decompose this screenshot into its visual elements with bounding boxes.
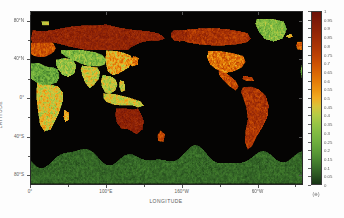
- x-tick: [106, 185, 107, 188]
- colorbar[interactable]: 10.950.90.850.80.750.70.650.60.550.50.45…: [311, 11, 322, 185]
- colorbar-tick: [308, 124, 311, 125]
- colorbar-unit-label: (※): [313, 192, 320, 197]
- colorbar-tick-label: 0.15: [324, 156, 332, 161]
- chart-figure: 0°100°E160°W60°W 80°N40°N0°40°S80°S LONG…: [0, 0, 344, 218]
- colorbar-tick-label: 0.35: [324, 122, 332, 127]
- colorbar-tick-label: 0.7: [324, 61, 330, 66]
- y-tick-right: [299, 137, 302, 138]
- colorbar-tick: [308, 81, 311, 82]
- colorbar-tick: [308, 98, 311, 99]
- global-heatmap-canvas: [31, 12, 302, 184]
- colorbar-tick-label: 0.55: [324, 87, 332, 92]
- x-tick-minor: [144, 185, 145, 187]
- colorbar-gradient: [311, 11, 322, 185]
- colorbar-tick-label: 1: [324, 9, 326, 14]
- colorbar-tick-label: 0.5: [324, 96, 330, 101]
- y-tick-label-text: 0°: [20, 95, 24, 100]
- colorbar-tick-label: 0.9: [324, 26, 330, 31]
- colorbar-tick: [308, 11, 311, 12]
- x-tick-minor: [68, 185, 69, 187]
- colorbar-tick: [308, 159, 311, 160]
- colorbar-tick-label: 0.95: [324, 17, 332, 22]
- colorbar-tick-label: 0.8: [324, 43, 330, 48]
- x-tick-label: 160°W: [174, 189, 188, 194]
- x-tick-label: 60°W: [252, 189, 264, 194]
- colorbar-tick-label: 0: [324, 183, 326, 188]
- x-axis-title: LONGITUDE: [149, 198, 182, 204]
- colorbar-tick: [308, 115, 311, 116]
- colorbar-tick-label: 0.05: [324, 174, 332, 179]
- colorbar-tick: [308, 185, 311, 186]
- colorbar-tick: [308, 46, 311, 47]
- y-tick-label-text: 80°S: [14, 172, 24, 177]
- x-tick: [182, 185, 183, 188]
- colorbar-tick: [308, 28, 311, 29]
- y-axis-title: LATITUDE: [0, 101, 3, 128]
- colorbar-tick: [308, 37, 311, 38]
- colorbar-tick-label: 0.75: [324, 52, 332, 57]
- x-tick-minor: [220, 185, 221, 187]
- colorbar-tick: [308, 142, 311, 143]
- colorbar-tick: [308, 63, 311, 64]
- y-tick: [27, 98, 30, 99]
- colorbar-tick-label: 0.2: [324, 148, 330, 153]
- y-tick-right: [299, 21, 302, 22]
- y-tick-minor: [28, 117, 30, 118]
- x-tick-top: [30, 12, 31, 15]
- y-tick: [27, 21, 30, 22]
- colorbar-tick-label: 0.65: [324, 69, 332, 74]
- colorbar-tick-label: 0.45: [324, 104, 332, 109]
- x-tick: [30, 185, 31, 188]
- y-tick: [27, 137, 30, 138]
- y-tick: [27, 175, 30, 176]
- y-tick-label-text: 80°N: [14, 18, 24, 23]
- y-tick-minor: [28, 156, 30, 157]
- x-tick-minor: [295, 185, 296, 187]
- map-plot-area[interactable]: [30, 11, 303, 185]
- colorbar-tick-label: 0.3: [324, 130, 330, 135]
- x-tick-top: [182, 12, 183, 15]
- y-tick-right: [299, 98, 302, 99]
- colorbar-tick: [308, 168, 311, 169]
- x-tick-label: 0°: [28, 189, 33, 194]
- y-tick-label-text: 40°S: [14, 134, 24, 139]
- colorbar-tick-label: 0.25: [324, 139, 332, 144]
- colorbar-tick: [308, 89, 311, 90]
- y-tick-right: [299, 59, 302, 60]
- colorbar-tick-label: 0.4: [324, 113, 330, 118]
- colorbar-tick: [308, 150, 311, 151]
- x-tick-top: [106, 12, 107, 15]
- colorbar-tick: [308, 72, 311, 73]
- colorbar-tick: [308, 20, 311, 21]
- x-tick: [258, 185, 259, 188]
- y-tick-label-text: 40°N: [14, 56, 24, 61]
- x-tick-top: [258, 12, 259, 15]
- colorbar-tick-label: 0.85: [324, 35, 332, 40]
- y-tick-right: [299, 175, 302, 176]
- y-tick-minor: [28, 79, 30, 80]
- colorbar-tick-label: 0.1: [324, 165, 330, 170]
- y-tick: [27, 59, 30, 60]
- x-tick-label: 100°E: [99, 189, 112, 194]
- colorbar-tick: [308, 55, 311, 56]
- y-tick-minor: [28, 40, 30, 41]
- colorbar-tick: [308, 107, 311, 108]
- colorbar-tick-label: 0.6: [324, 78, 330, 83]
- colorbar-tick: [308, 176, 311, 177]
- colorbar-tick: [308, 133, 311, 134]
